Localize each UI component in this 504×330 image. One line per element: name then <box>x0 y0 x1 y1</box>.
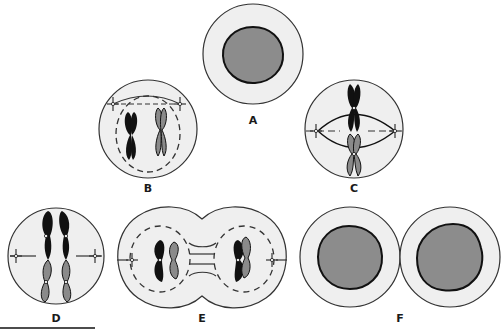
panel-label-e: E <box>198 312 206 325</box>
mitosis-diagram: A B <box>0 0 504 330</box>
panel-e: E <box>117 207 287 325</box>
nucleus <box>417 224 482 291</box>
panel-label-d: D <box>51 312 60 325</box>
nucleus <box>223 27 283 83</box>
panel-d: D <box>8 208 104 325</box>
panel-label-a: A <box>249 114 258 127</box>
panel-a: A <box>203 4 303 127</box>
panel-f: F <box>300 207 500 325</box>
nucleus <box>318 226 382 289</box>
panel-c: C <box>305 80 403 195</box>
cell-membrane-dividing <box>118 207 287 308</box>
cell-membrane <box>99 80 197 178</box>
panel-label-f: F <box>396 312 404 325</box>
panel-label-b: B <box>144 182 152 195</box>
panel-label-c: C <box>350 182 358 195</box>
panel-b: B <box>99 80 197 195</box>
